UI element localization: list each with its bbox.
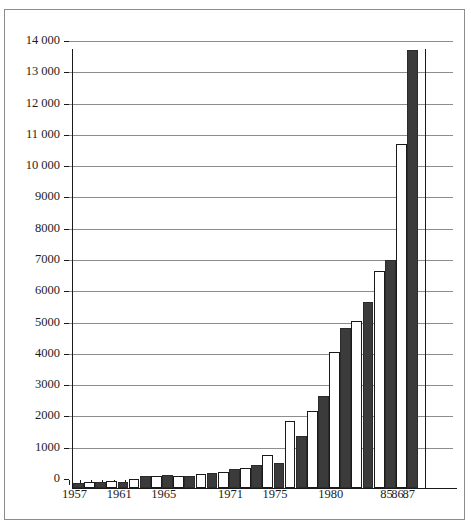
y-axis-tick-label: 5000: [5, 316, 60, 329]
bar: [73, 483, 84, 488]
y-axis-tick-label: 14 000: [5, 34, 60, 47]
bar: [285, 421, 296, 488]
bar: [274, 463, 285, 488]
y-axis-tick: [64, 416, 69, 417]
y-axis-tick: [64, 104, 69, 105]
y-axis-labels: 010002000300040005000600070008000900010 …: [5, 10, 67, 529]
bar: [173, 476, 184, 489]
bar: [318, 396, 329, 488]
y-axis-tick: [64, 72, 69, 73]
y-axis-tick-label: 11 000: [5, 128, 60, 141]
y-axis-tick: [64, 197, 69, 198]
y-axis-tick-label: 12 000: [5, 97, 60, 110]
y-axis-tick-label: 2000: [5, 409, 60, 422]
bar: [118, 482, 129, 488]
y-axis-tick-label: 7000: [5, 253, 60, 266]
bar: [385, 260, 396, 488]
y-axis-tick-label: 8000: [5, 222, 60, 235]
x-axis-tick-label: 1965: [151, 488, 176, 501]
y-axis-tick-label: 9000: [5, 190, 60, 203]
x-axis-tick-label: 1980: [318, 488, 343, 501]
bar: [207, 473, 218, 488]
bar: [162, 475, 173, 488]
y-axis-tick: [64, 291, 69, 292]
x-axis-tick-label: 87: [402, 488, 415, 501]
x-axis-tick-label: 1961: [107, 488, 132, 501]
bar: [351, 321, 362, 488]
y-axis-tick: [64, 323, 69, 324]
bar: [307, 411, 318, 488]
bar: [95, 482, 106, 488]
x-axis-tick-label: 1957: [62, 488, 87, 501]
bar: [106, 481, 117, 488]
gridline: [69, 41, 421, 42]
bar: [140, 476, 151, 488]
y-axis-tick: [64, 41, 69, 42]
bar: [229, 469, 240, 488]
bar: [251, 465, 262, 488]
chart-frame: 010002000300040005000600070008000900010 …: [4, 9, 465, 520]
bar: [340, 328, 351, 488]
y-axis-tick-label: 0: [5, 472, 60, 485]
y-axis-tick: [64, 135, 69, 136]
y-axis-tick: [64, 260, 69, 261]
y-axis-tick-right: [421, 41, 453, 42]
bar: [262, 455, 273, 488]
bar: [363, 302, 374, 488]
bar: [374, 271, 385, 488]
x-axis-tick-label: 1975: [263, 488, 288, 501]
y-axis-tick-label: 6000: [5, 284, 60, 297]
bar: [184, 476, 195, 488]
bar: [329, 352, 340, 488]
x-axis-tick: [69, 480, 70, 485]
bar: [407, 50, 418, 488]
y-axis-tick-label: 3000: [5, 378, 60, 391]
plot-area: [73, 50, 425, 488]
y-axis-tick: [64, 448, 69, 449]
bar: [396, 144, 407, 488]
y-axis-tick-label: 1000: [5, 441, 60, 454]
y-axis-tick: [64, 229, 69, 230]
bar: [296, 436, 307, 488]
bar: [151, 476, 162, 489]
bar: [129, 479, 140, 488]
y-axis-line-right: [425, 49, 426, 489]
bar: [218, 472, 229, 488]
y-axis-tick-label: 10 000: [5, 159, 60, 172]
x-axis-tick-label: 1971: [218, 488, 243, 501]
y-axis-tick-label: 4000: [5, 347, 60, 360]
y-axis-tick-label: 13 000: [5, 65, 60, 78]
bar: [196, 474, 207, 488]
y-axis-tick: [64, 354, 69, 355]
y-axis-tick: [64, 166, 69, 167]
y-axis-tick: [64, 385, 69, 386]
bar: [240, 468, 251, 488]
bar: [84, 482, 95, 488]
